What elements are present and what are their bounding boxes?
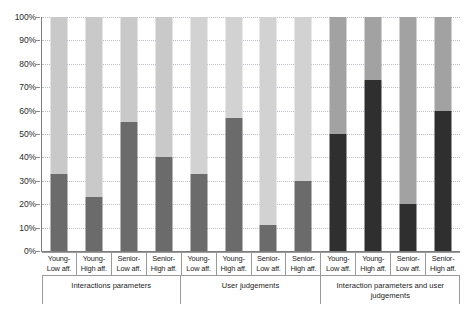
bar-segment-lower xyxy=(225,118,242,251)
bar-slot xyxy=(286,17,321,251)
category-label-line: Low aff. xyxy=(42,264,76,274)
category-label-line: Low aff. xyxy=(182,264,216,274)
bar-segment-upper xyxy=(86,17,103,197)
category-label-line: Young- xyxy=(217,254,251,264)
bar-segment-lower xyxy=(260,225,277,251)
bar-segment-upper xyxy=(399,17,416,204)
y-tick-mark xyxy=(36,157,40,158)
y-tick-label: 50% xyxy=(19,129,36,139)
category-label-line: Senior- xyxy=(391,254,425,264)
category-label: Senior-Low aff. xyxy=(391,252,426,276)
y-tick-mark xyxy=(36,228,40,229)
bar-slot xyxy=(216,17,251,251)
group-axis-right-rule xyxy=(459,276,460,304)
stacked-bar[interactable] xyxy=(155,17,172,251)
bar-slot xyxy=(355,17,390,251)
bar-segment-upper xyxy=(190,17,207,174)
y-tick-label: 70% xyxy=(19,82,36,92)
y-tick-label: 20% xyxy=(19,199,36,209)
y-tick-label: 30% xyxy=(19,176,36,186)
y-tick-label: 80% xyxy=(19,59,36,69)
category-label-line: High aff. xyxy=(147,264,181,274)
category-label-line: High aff. xyxy=(426,264,460,274)
bar-segment-lower xyxy=(121,122,138,251)
bar-segment-lower xyxy=(364,80,381,251)
bar-slot xyxy=(146,17,181,251)
category-label: Young-High aff. xyxy=(217,252,252,276)
bar-segment-lower xyxy=(86,197,103,251)
stacked-bar[interactable] xyxy=(51,17,68,251)
y-tick-label: 40% xyxy=(19,152,36,162)
bar-segment-lower xyxy=(295,181,312,251)
category-label: Young-Low aff. xyxy=(321,252,356,276)
bar-segment-upper xyxy=(225,17,242,118)
stacked-bar[interactable] xyxy=(86,17,103,251)
bar-slot xyxy=(321,17,356,251)
bar-slot xyxy=(181,17,216,251)
y-tick-mark xyxy=(36,40,40,41)
stacked-bar[interactable] xyxy=(330,17,347,251)
group-label: User judgements xyxy=(181,276,320,304)
stacked-bar[interactable] xyxy=(121,17,138,251)
bar-slot xyxy=(112,17,147,251)
bar-slot xyxy=(251,17,286,251)
category-label-line: Senior- xyxy=(147,254,181,264)
bar-slot xyxy=(390,17,425,251)
category-label: Young-Low aff. xyxy=(42,252,77,276)
y-tick-mark xyxy=(36,17,40,18)
category-label-line: Young- xyxy=(77,254,111,264)
bar-segment-upper xyxy=(260,17,277,225)
bar-segment-upper xyxy=(364,17,381,80)
category-label-line: Low aff. xyxy=(391,264,425,274)
category-label-line: Low aff. xyxy=(321,264,355,274)
stacked-bar[interactable] xyxy=(295,17,312,251)
y-tick-mark xyxy=(36,251,40,252)
stacked-bar[interactable] xyxy=(190,17,207,251)
category-label: Senior-Low aff. xyxy=(112,252,147,276)
bar-segment-lower xyxy=(330,134,347,251)
category-axis-labels: Young-Low aff.Young-High aff.Senior-Low … xyxy=(42,252,460,276)
bar-segment-upper xyxy=(155,17,172,157)
category-label: Senior-High aff. xyxy=(426,252,460,276)
y-tick-mark xyxy=(36,64,40,65)
bar-segment-upper xyxy=(434,17,451,111)
bar-segment-lower xyxy=(155,157,172,251)
bar-slot xyxy=(425,17,460,251)
bar-slot xyxy=(77,17,112,251)
group-label: Interaction parameters and user judgemen… xyxy=(321,276,460,304)
y-tick-label: 10% xyxy=(19,223,36,233)
y-tick-label: 100% xyxy=(15,12,36,22)
category-label: Senior-Low aff. xyxy=(252,252,287,276)
plot-area xyxy=(42,17,460,251)
stacked-bar[interactable] xyxy=(225,17,242,251)
category-label-line: Senior- xyxy=(426,254,460,264)
bar-segment-upper xyxy=(330,17,347,134)
y-tick-label: 0% xyxy=(24,246,36,256)
bar-segment-upper xyxy=(121,17,138,122)
category-label-line: Senior- xyxy=(252,254,286,264)
bar-segment-lower xyxy=(434,111,451,251)
group-axis-labels: Interactions parametersUser judgementsIn… xyxy=(42,276,460,304)
y-axis: 0%10%20%30%40%50%60%70%80%90%100% xyxy=(0,11,40,257)
bar-segment-upper xyxy=(51,17,68,174)
stacked-bar[interactable] xyxy=(260,17,277,251)
category-label-line: High aff. xyxy=(77,264,111,274)
stacked-bar[interactable] xyxy=(364,17,381,251)
y-tick-label: 60% xyxy=(19,106,36,116)
category-label: Senior-High aff. xyxy=(286,252,321,276)
stacked-bar[interactable] xyxy=(434,17,451,251)
bar-segment-lower xyxy=(51,174,68,251)
category-label-line: Young- xyxy=(356,254,390,264)
bar-segment-upper xyxy=(295,17,312,181)
category-label-line: Senior- xyxy=(112,254,146,264)
category-label: Young-High aff. xyxy=(77,252,112,276)
stacked-bar[interactable] xyxy=(399,17,416,251)
category-label-line: Young- xyxy=(321,254,355,264)
group-label: Interactions parameters xyxy=(42,276,181,304)
y-tick-mark xyxy=(36,111,40,112)
category-label-line: High aff. xyxy=(356,264,390,274)
category-label: Young-Low aff. xyxy=(182,252,217,276)
y-tick-mark xyxy=(36,134,40,135)
group-axis-left-rule xyxy=(42,276,43,304)
category-label-line: Young- xyxy=(42,254,76,264)
